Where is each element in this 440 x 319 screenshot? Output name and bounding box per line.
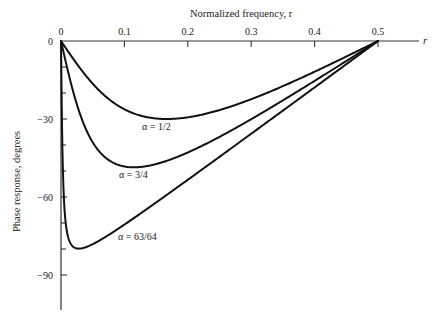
y-tick-label: −90 — [37, 270, 53, 281]
x-axis-title: Normalized frequency, r — [190, 8, 293, 19]
phase-response-chart: Normalized frequency, r Phase response, … — [0, 0, 440, 319]
x-tick-label: 0.3 — [245, 26, 258, 37]
y-tick-label: −60 — [37, 192, 53, 203]
label-alpha-3-4: α = 3/4 — [119, 169, 148, 180]
x-tick-label: 0.5 — [372, 26, 385, 37]
x-tick-label: 0 — [59, 26, 64, 37]
label-alpha-1-2: α = 1/2 — [142, 121, 171, 132]
x-tick-label: 0.1 — [118, 26, 131, 37]
x-axis-end-label: r — [423, 35, 428, 46]
y-axis-title: Phase response, degrees — [11, 131, 22, 232]
label-alpha-63-64: α = 63/64 — [118, 231, 157, 242]
y-tick-label: 0 — [48, 36, 53, 47]
curve-alpha-3-4 — [61, 41, 378, 167]
curve-alpha-1-2 — [61, 41, 378, 119]
x-tick-label: 0.2 — [182, 26, 195, 37]
y-tick-label: −30 — [37, 114, 53, 125]
x-tick-label: 0.4 — [308, 26, 321, 37]
